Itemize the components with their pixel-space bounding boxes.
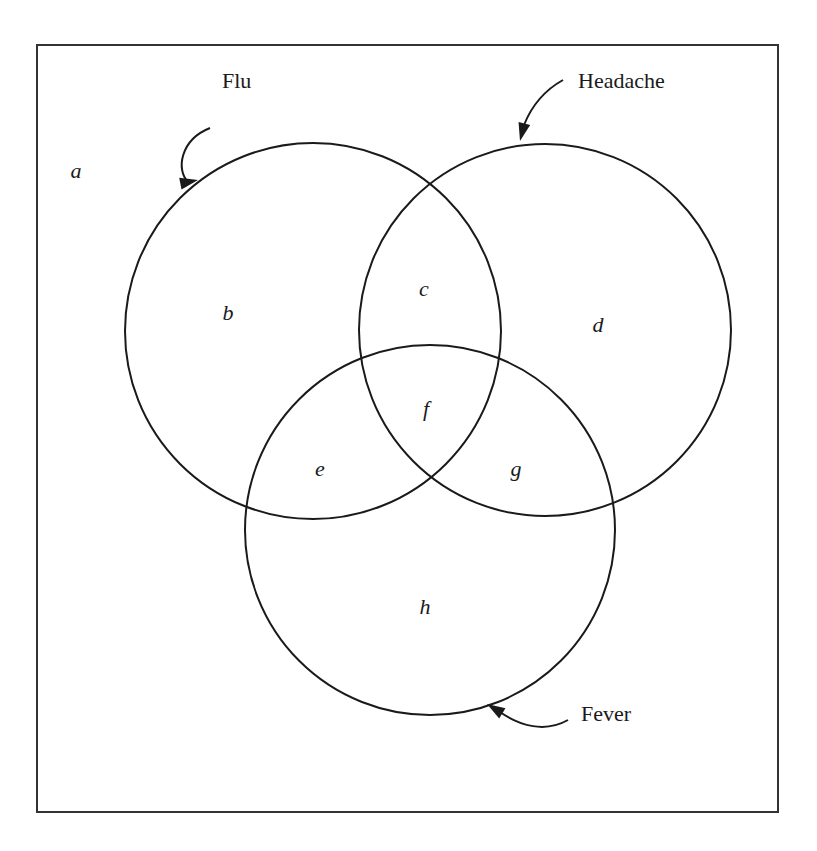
diagram-frame [37,45,778,812]
region-label-f: f [423,396,432,421]
set-label-fever: Fever [581,701,632,726]
arrowhead-fever-icon [487,704,505,719]
circle-flu [125,143,501,519]
region-labels: abcdefgh [71,158,605,619]
set-labels: FluHeadacheFever [222,68,665,726]
region-label-a: a [71,158,82,183]
arrow-fever [500,712,568,727]
arrow-flu [182,128,210,182]
set-circles [125,143,731,715]
region-label-h: h [420,594,431,619]
arrow-headache [524,80,563,125]
circle-fever [245,345,615,715]
set-label-flu: Flu [222,68,251,93]
region-label-e: e [315,456,325,481]
region-label-g: g [511,456,522,481]
region-label-d: d [593,312,605,337]
region-label-c: c [419,276,429,301]
region-label-b: b [223,300,234,325]
circle-headache [359,144,731,516]
set-label-headache: Headache [578,68,665,93]
arrowhead-headache-icon [519,122,531,141]
venn-diagram: FluHeadacheFever abcdefgh [0,0,817,851]
